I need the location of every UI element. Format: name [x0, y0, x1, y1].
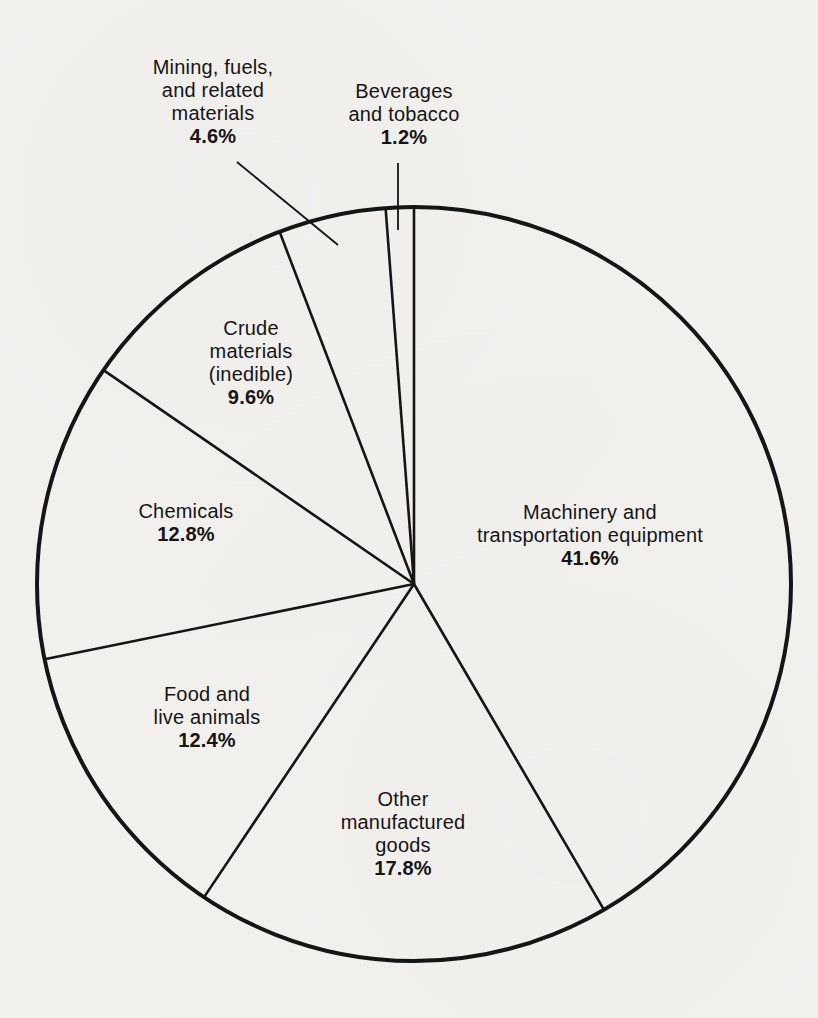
label-line: manufactured [341, 811, 466, 834]
slice-label-other-manufactured-goods: Other manufactured goods 17.8% [341, 788, 466, 880]
slice-boundary-line [280, 232, 414, 584]
slice-label-machinery-transportation-equipment: Machinery and transportation equipment 4… [477, 501, 703, 570]
label-line: Food and [154, 683, 261, 706]
label-percent: 12.4% [154, 729, 261, 752]
slice-boundary-line [386, 208, 414, 584]
scanned-page: Machinery and transportation equipment 4… [0, 0, 818, 1018]
slice-label-chemicals: Chemicals 12.8% [138, 500, 233, 546]
label-percent: 17.8% [341, 857, 466, 880]
label-percent: 1.2% [348, 126, 459, 149]
label-line: transportation equipment [477, 524, 703, 547]
label-percent: 4.6% [153, 125, 274, 148]
label-line: and related [153, 79, 274, 102]
label-percent: 41.6% [477, 547, 703, 570]
label-line: Chemicals [138, 500, 233, 523]
slice-label-mining-fuels: Mining, fuels, and related materials 4.6… [153, 56, 274, 148]
label-line: Crude [209, 317, 293, 340]
label-line: Beverages [348, 80, 459, 103]
label-percent: 9.6% [209, 386, 293, 409]
label-line: live animals [154, 706, 261, 729]
label-line: and tobacco [348, 103, 459, 126]
label-line: Machinery and [477, 501, 703, 524]
slice-label-crude-materials: Crude materials (inedible) 9.6% [209, 317, 293, 409]
slice-label-beverages-tobacco: Beverages and tobacco 1.2% [348, 80, 459, 149]
slice-boundary-line [45, 584, 414, 659]
label-line: materials [209, 340, 293, 363]
label-line: goods [341, 834, 466, 857]
label-line: (inedible) [209, 363, 293, 386]
label-line: Other [341, 788, 466, 811]
slice-label-food-live-animals: Food and live animals 12.4% [154, 683, 261, 752]
label-line: materials [153, 102, 274, 125]
label-percent: 12.8% [138, 523, 233, 546]
label-line: Mining, fuels, [153, 56, 274, 79]
leader-line-mining-fuels [237, 162, 338, 245]
